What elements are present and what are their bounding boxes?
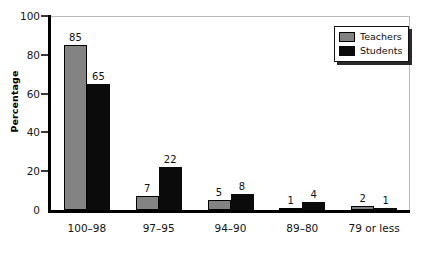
y-tick-label-20: 20 bbox=[12, 166, 40, 176]
bar-value-label: 85 bbox=[69, 33, 82, 43]
bar-fill bbox=[231, 194, 254, 210]
bar-value-label: 2 bbox=[359, 194, 365, 204]
y-tick-label-40: 40 bbox=[12, 127, 40, 137]
bar-value-label: 5 bbox=[216, 188, 222, 198]
bar-students[interactable]: 22 bbox=[159, 16, 182, 210]
y-tick-label-60: 60 bbox=[12, 89, 40, 99]
bar-fill bbox=[302, 202, 325, 210]
bar-fill bbox=[351, 206, 374, 210]
bar-fill bbox=[159, 167, 182, 210]
bar-group: 8565 bbox=[63, 16, 111, 210]
bar-chart: Percentage 020406080100 8565722581421 10… bbox=[0, 0, 432, 253]
legend-label-teachers: Teachers bbox=[360, 32, 402, 42]
bar-fill bbox=[208, 200, 231, 210]
chart-legend: Teachers Students bbox=[334, 26, 409, 62]
bar-group: 14 bbox=[278, 16, 326, 210]
bar-value-label: 65 bbox=[92, 72, 105, 82]
bar-value-label: 7 bbox=[144, 184, 150, 194]
bar-value-label: 22 bbox=[164, 155, 177, 165]
bar-group: 58 bbox=[207, 16, 255, 210]
bar-fill bbox=[279, 208, 302, 210]
bar-teachers[interactable]: 1 bbox=[279, 16, 302, 210]
legend-swatch-teachers bbox=[339, 32, 355, 42]
bar-teachers[interactable]: 5 bbox=[208, 16, 231, 210]
y-tick-label-100: 100 bbox=[12, 11, 40, 21]
bar-value-label: 1 bbox=[288, 196, 294, 206]
bar-value-label: 4 bbox=[311, 190, 317, 200]
bar-value-label: 8 bbox=[239, 182, 245, 192]
y-tick-label-0: 0 bbox=[12, 205, 40, 215]
bar-students[interactable]: 65 bbox=[87, 16, 110, 210]
bar-fill bbox=[64, 45, 87, 210]
bar-teachers[interactable]: 85 bbox=[64, 16, 87, 210]
bar-students[interactable]: 4 bbox=[302, 16, 325, 210]
bar-students[interactable]: 8 bbox=[231, 16, 254, 210]
y-axis-tick-labels: 020406080100 bbox=[6, 0, 40, 253]
bar-fill bbox=[374, 208, 397, 210]
category-label: 79 or less bbox=[324, 222, 424, 234]
x-axis-line bbox=[48, 210, 410, 213]
bar-teachers[interactable]: 7 bbox=[136, 16, 159, 210]
x-axis-category-labels: 100–9897–9594–9089–8079 or less bbox=[51, 222, 410, 238]
legend-swatch-students bbox=[339, 46, 355, 56]
legend-label-students: Students bbox=[360, 46, 402, 56]
bar-value-label: 1 bbox=[382, 196, 388, 206]
bar-fill bbox=[136, 196, 159, 210]
bar-group: 722 bbox=[135, 16, 183, 210]
legend-item-teachers[interactable]: Teachers bbox=[339, 30, 404, 44]
legend-item-students[interactable]: Students bbox=[339, 44, 404, 58]
bar-fill bbox=[87, 84, 110, 210]
y-tick-label-80: 80 bbox=[12, 50, 40, 60]
